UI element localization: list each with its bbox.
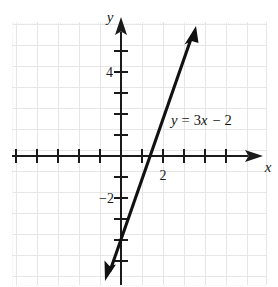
graph-figure: 4 −2 2 y x y=3x−2	[0, 0, 278, 287]
grid-lines	[12, 22, 266, 285]
equation-coefficient: 3	[194, 112, 201, 128]
equation-label: y=3x−2	[169, 112, 232, 128]
equation-y: y	[169, 112, 178, 128]
y-axis-label: y	[105, 9, 114, 25]
equation-x: x	[200, 112, 208, 128]
equation-minus: −	[212, 112, 220, 128]
equation-equals: =	[181, 112, 189, 128]
x-tick-label-2: 2	[160, 168, 167, 183]
coordinate-plane-svg: 4 −2 2 y x y=3x−2	[0, 0, 278, 287]
svg-text:y=3x−2: y=3x−2	[169, 112, 232, 128]
y-tick-label-4: 4	[106, 65, 113, 80]
y-tick-label-neg2: −2	[99, 191, 114, 206]
line-arrowhead-down	[105, 261, 117, 282]
x-axis-label: x	[264, 159, 272, 175]
equation-constant: 2	[225, 112, 232, 128]
